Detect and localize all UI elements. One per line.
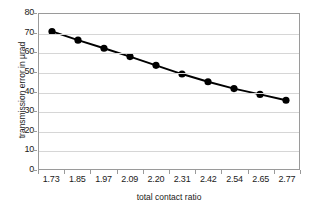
y-axis-tick-mark [33,92,37,93]
x-axis-tick-mark [143,170,144,174]
x-axis-tick-mark [117,170,118,174]
x-axis-tick-mark [300,170,301,174]
y-axis-tick-mark [33,170,37,171]
series-line [52,31,286,100]
gridline [39,151,299,152]
y-axis-tick-mark [33,13,37,14]
x-axis-tick-mark [248,170,249,174]
y-axis-title: transmission error in µrad [17,10,27,170]
gridline [39,93,299,94]
data-point-marker [178,71,185,78]
gridline [39,132,299,133]
data-point-marker [230,85,237,92]
x-axis-title: total contact ratio [38,192,300,202]
x-axis-tick-label: 2.77 [270,174,304,184]
y-axis-tick-mark [33,72,37,73]
gridline [39,34,299,35]
plot-area [38,13,300,170]
series-line-transmission-error [39,14,299,169]
data-point-marker [282,97,289,104]
x-axis-tick-mark [90,170,91,174]
y-axis-tick-mark [33,131,37,132]
y-axis-tick-mark [33,52,37,53]
data-point-marker [74,37,81,44]
y-axis-tick-mark [33,111,37,112]
data-point-marker [204,78,211,85]
x-axis-tick-mark [195,170,196,174]
gridline [39,53,299,54]
chart-container: 01020304050607080 1.731.851.972.092.202.… [0,0,313,213]
x-axis-tick-mark [64,170,65,174]
data-point-marker [152,62,159,69]
x-axis-tick-mark [274,170,275,174]
gridline [39,112,299,113]
gridline [39,73,299,74]
x-axis-tick-mark [221,170,222,174]
x-axis-tick-mark [38,170,39,174]
y-axis-tick-mark [33,150,37,151]
y-axis-tick-mark [33,33,37,34]
x-axis-tick-mark [169,170,170,174]
data-point-marker [100,45,107,52]
